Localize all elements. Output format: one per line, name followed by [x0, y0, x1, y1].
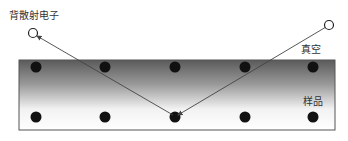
- atom: [100, 112, 111, 123]
- backscatter-diagram: 背散射电子 真空 样品: [0, 0, 348, 141]
- atom: [100, 62, 111, 73]
- vacuum-label: 真空: [301, 43, 321, 55]
- atom: [31, 112, 42, 123]
- atom: [240, 112, 251, 123]
- source-circle-right: [325, 21, 334, 30]
- detector-circle-left: [29, 29, 38, 38]
- backscattered-electron-label: 背散射电子: [9, 9, 59, 21]
- atom: [308, 62, 319, 73]
- atom: [31, 62, 42, 73]
- atom: [170, 62, 181, 73]
- atom: [240, 62, 251, 73]
- atom: [308, 112, 319, 123]
- atom: [170, 112, 181, 123]
- sample-label: 样品: [303, 95, 323, 107]
